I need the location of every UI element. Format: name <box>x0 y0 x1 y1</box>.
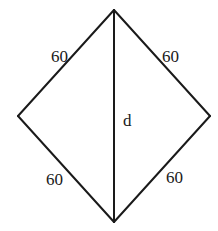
side-label-top-right: 60 <box>162 48 179 65</box>
side-bottom-left <box>18 116 114 222</box>
rhombus-figure <box>0 0 218 231</box>
side-bottom-right <box>114 116 210 222</box>
diagonal-label: d <box>123 112 132 129</box>
side-label-top-left: 60 <box>51 48 68 65</box>
diagram-canvas: 60 60 60 60 d <box>0 0 218 231</box>
side-label-bottom-right: 60 <box>166 169 183 186</box>
side-label-bottom-left: 60 <box>46 171 63 188</box>
